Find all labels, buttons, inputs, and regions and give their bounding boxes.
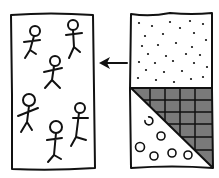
stick-figure <box>66 20 82 58</box>
diagram-canvas <box>0 0 219 178</box>
stick-figure <box>47 121 62 162</box>
right-panel <box>130 13 213 168</box>
left-panel <box>11 14 95 170</box>
stick-figure <box>44 56 62 88</box>
dotted-region <box>137 20 208 83</box>
stick-figure <box>24 26 40 58</box>
arrow-left-icon <box>99 57 127 69</box>
stick-figure <box>71 103 88 146</box>
stick-figure <box>18 94 38 132</box>
